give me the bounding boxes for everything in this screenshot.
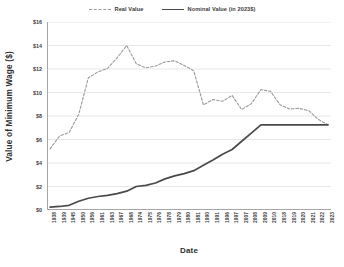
y-axis-tick-label: $14 xyxy=(33,43,42,49)
x-axis-tick-label: 1996 xyxy=(225,212,230,223)
y-axis-tick-label: $4 xyxy=(36,160,42,166)
x-axis-tick-label: 1950 xyxy=(81,212,86,223)
x-axis-tick-label: 1961 xyxy=(100,212,105,223)
x-axis-tick-label: 2020 xyxy=(301,212,306,223)
x-axis-tick-label: 1997 xyxy=(234,212,239,223)
x-axis-tick-label: 1980 xyxy=(186,212,191,223)
y-axis-tick-label: $10 xyxy=(33,90,42,96)
legend-label-nominal-value: Nominal Value (in 2023$) xyxy=(188,6,256,12)
y-axis-line xyxy=(47,22,48,210)
x-axis-tick-label: 1981 xyxy=(196,212,201,223)
x-axis-tick-label: 1967 xyxy=(119,212,124,223)
x-axis-tick-label: 2022 xyxy=(320,212,325,223)
legend-label-real-value: Real Value xyxy=(115,6,144,12)
x-axis-tick-label: 1945 xyxy=(71,212,76,223)
x-axis-tick-label: 2009 xyxy=(263,212,268,223)
y-axis-title-text: Value of Minimum Wage ($) xyxy=(5,51,14,162)
y-axis-tick-label: $12 xyxy=(33,66,42,72)
y-axis-title: Value of Minimum Wage ($) xyxy=(2,0,16,212)
x-axis-tick-label: 2021 xyxy=(311,212,316,223)
legend-item-nominal-value[interactable]: Nominal Value (in 2023$) xyxy=(162,6,256,12)
series-line-real-value xyxy=(50,46,328,149)
x-axis-tick-label: 1975 xyxy=(148,212,153,223)
legend-solid-line-icon xyxy=(162,9,184,10)
x-axis-tick-label: 1978 xyxy=(167,212,172,223)
x-axis-tick-label: 2018 xyxy=(282,212,287,223)
y-axis-tick-label: $6 xyxy=(36,137,42,143)
y-axis-tick-label: $0 xyxy=(36,207,42,213)
y-axis-tick-labels: $0$2$4$6$8$10$12$14$16 xyxy=(16,22,45,210)
series-line-nominal-value xyxy=(50,125,328,207)
minimum-wage-line-chart: Real Value Nominal Value (in 2023$) Valu… xyxy=(0,0,344,267)
x-axis-tick-labels: 1938193919451950195619611963196719681974… xyxy=(47,212,331,242)
x-axis-title: Date xyxy=(47,246,331,255)
x-axis-tick-label: 1991 xyxy=(215,212,220,223)
x-axis-tick-label: 1939 xyxy=(62,212,67,223)
y-axis-tick-label: $2 xyxy=(36,184,42,190)
x-axis-tick-label: 1963 xyxy=(110,212,115,223)
x-axis-tick-label: 1956 xyxy=(90,212,95,223)
x-axis-tick-label: 2010 xyxy=(272,212,277,223)
x-axis-tick-label: 1990 xyxy=(205,212,210,223)
x-axis-tick-label: 1976 xyxy=(157,212,162,223)
x-axis-tick-label: 2023 xyxy=(330,212,335,223)
x-axis-line xyxy=(47,209,331,210)
x-axis-tick-label: 2019 xyxy=(292,212,297,223)
x-axis-tick-label: 1974 xyxy=(138,212,143,223)
legend-dashed-line-icon xyxy=(89,9,111,10)
plot-area xyxy=(47,22,331,210)
x-axis-tick-label: 1938 xyxy=(52,212,57,223)
x-axis-tick-label: 2008 xyxy=(253,212,258,223)
legend-item-real-value[interactable]: Real Value xyxy=(89,6,144,12)
series-canvas xyxy=(47,22,331,210)
y-axis-tick-label: $16 xyxy=(33,19,42,25)
y-axis-tick-label: $8 xyxy=(36,113,42,119)
x-axis-tick-label: 1968 xyxy=(129,212,134,223)
x-axis-tick-label: 1979 xyxy=(177,212,182,223)
x-axis-tick-label: 2007 xyxy=(244,212,249,223)
chart-legend: Real Value Nominal Value (in 2023$) xyxy=(0,6,344,12)
